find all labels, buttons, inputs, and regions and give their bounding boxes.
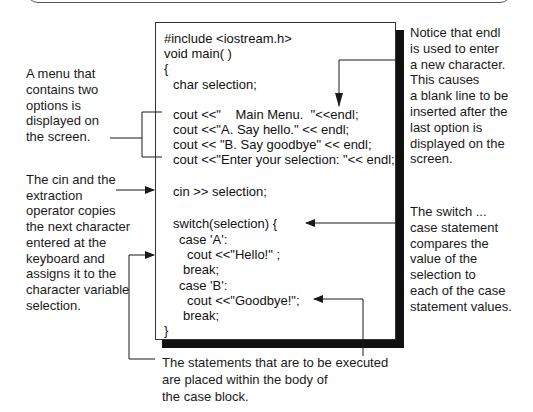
annotation-text: case statement [410,220,512,236]
code-line-open-brace: { [164,61,168,76]
code-line-case-a: case 'A': [179,232,227,247]
annotation-text: operator copies [26,203,130,219]
annotation-text: assigns it to the [26,266,130,282]
code-line-cin: cin >> selection; [173,184,267,199]
code-line-cout-goodbye: cout <<"Goodbye!"; [187,293,300,308]
annotation-text: last option is [410,120,508,136]
annotation-text: screen. [410,151,508,167]
annotation-text: the case block. [162,388,388,405]
annotation-cin: The cin and the extraction operator copi… [26,172,130,313]
code-listing-box: #include <iostream.h> void main( ) { cha… [155,22,396,340]
annotation-text: displayed on [26,113,99,129]
annotation-endl: Notice that endl is used to enter a new … [410,25,508,167]
annotation-text: extraction [26,188,130,204]
annotation-text: contains two [26,82,99,98]
annotation-text: displayed on the [410,136,508,152]
annotation-text: statement values. [410,299,512,315]
annotation-text: selection to [410,267,512,283]
annotation-text: is used to enter [410,41,508,57]
code-line-prompt: cout <<"Enter your selection: "<< endl; [173,152,395,167]
annotation-text: compares the [410,236,512,252]
code-line-case-b: case 'B': [179,278,227,293]
code-line-menu-title: cout <<" Main Menu. "<<endl; [173,107,359,122]
annotation-text: A menu that [26,66,99,82]
annotation-text: The switch ... [410,204,512,220]
annotation-text: selection. [26,298,130,314]
code-line-option-b: cout << "B. Say goodbye" << endl; [173,137,372,152]
annotation-text: the next character [26,219,130,235]
code-line-switch: switch(selection) { [173,216,277,231]
annotation-text: inserted after the [410,104,508,120]
case-block-connector [129,255,155,359]
annotation-text: options is [26,98,99,114]
code-line-declaration: char selection; [173,77,257,92]
code-line-option-a: cout <<"A. Say hello." << endl; [173,122,349,137]
code-line-break-a: break; [183,262,219,277]
code-line-include: #include <iostream.h> [164,31,292,46]
annotation-text: The cin and the [26,172,130,188]
annotation-text: character variable [26,282,130,298]
annotation-switch: The switch ... case statement compares t… [410,204,512,315]
annotation-text: the screen. [26,129,99,145]
code-line-main: void main( ) [164,46,232,61]
annotation-text: keyboard and [26,251,130,267]
annotation-text: each of the case [410,283,512,299]
top-frame-border [26,0,512,3]
annotation-text: are placed within the body of [162,371,388,388]
annotation-case-block: The statements that are to be executed a… [162,354,388,405]
annotation-text: a blank line to be [410,88,508,104]
annotation-text: entered at the [26,235,130,251]
annotation-text: Notice that endl [410,25,508,41]
annotation-menu: A menu that contains two options is disp… [26,66,99,145]
code-line-cout-hello: cout <<"Hello!" ; [187,247,280,262]
code-line-close-brace: } [164,323,168,338]
annotation-text: This causes [410,72,508,88]
annotation-text: The statements that are to be executed [162,354,388,371]
code-line-break-b: break; [183,308,219,323]
annotation-text: value of the [410,251,512,267]
annotation-text: a new character. [410,57,508,73]
